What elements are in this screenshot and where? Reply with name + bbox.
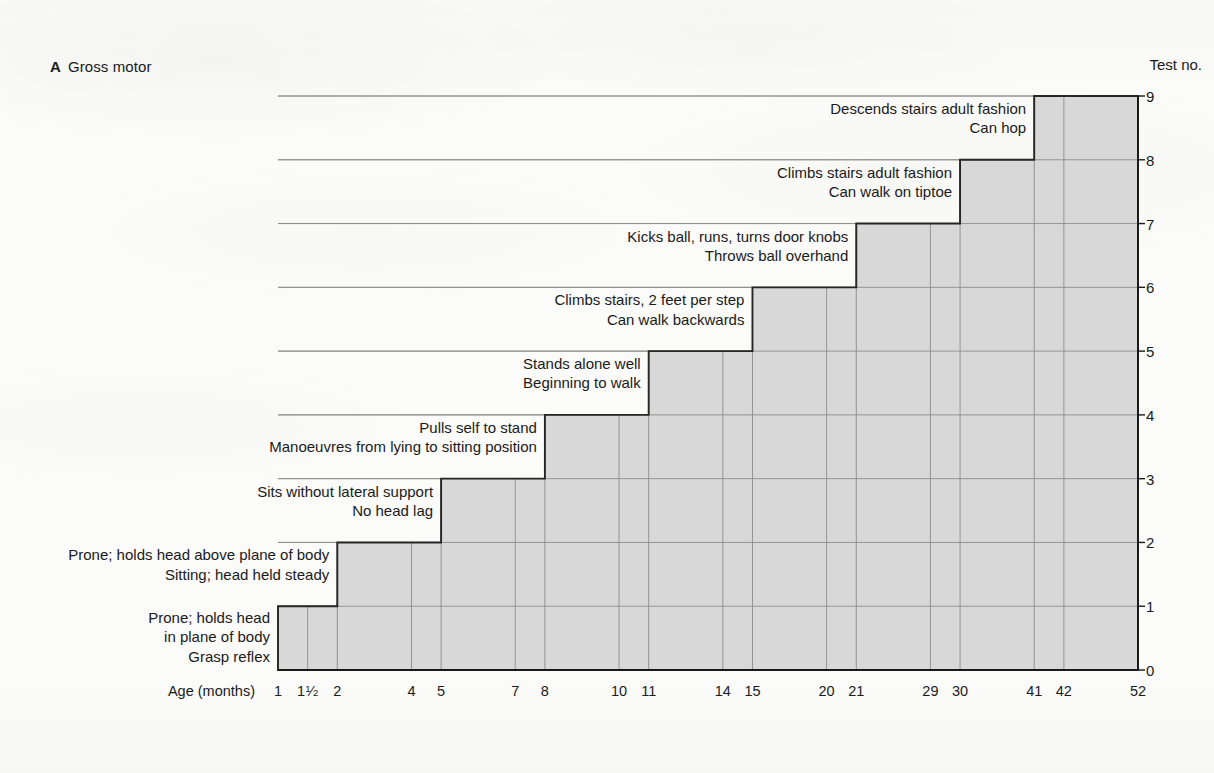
y-axis-title: Test no. — [1149, 56, 1202, 73]
step-milestone-line: Beginning to walk — [0, 373, 641, 392]
step-milestone-line: Can hop — [0, 118, 1026, 137]
x-tick-label: 15 — [744, 684, 760, 699]
step-milestone-line: Kicks ball, runs, turns door knobs — [0, 226, 848, 245]
step-milestone-line: Pulls self to stand — [0, 418, 537, 437]
y-tick-label: 7 — [1146, 216, 1154, 231]
step-block — [649, 351, 753, 670]
y-tick-label: 2 — [1146, 535, 1154, 550]
step-milestone-label: Climbs stairs, 2 feet per stepCan walk b… — [0, 290, 744, 328]
step-milestone-line: Can walk backwards — [0, 309, 744, 328]
x-tick-label: 11 — [641, 684, 656, 699]
step-milestone-line: in plane of body — [0, 628, 270, 647]
step-milestone-line: Manoeuvres from lying to sitting positio… — [0, 437, 537, 456]
step-milestone-label: Descends stairs adult fashionCan hop — [0, 99, 1026, 137]
step-milestone-line: Prone; holds head — [0, 609, 270, 628]
step-block — [856, 224, 960, 670]
x-tick-label: 41 — [1026, 684, 1042, 699]
x-axis-title: Age (months) — [168, 684, 255, 699]
y-tick-label: 4 — [1146, 407, 1154, 422]
step-milestone-line: No head lag — [0, 500, 433, 519]
step-milestone-label: Pulls self to standManoeuvres from lying… — [0, 418, 537, 456]
y-tick-label: 6 — [1146, 280, 1154, 295]
x-tick-label: 21 — [848, 684, 864, 699]
x-tick-label: 2 — [333, 684, 341, 699]
y-tick-label: 0 — [1146, 663, 1154, 678]
x-tick-label: 7 — [511, 684, 519, 699]
step-milestone-line: Grasp reflex — [0, 647, 270, 666]
step-block — [1034, 96, 1138, 670]
x-tick-label: 5 — [437, 684, 445, 699]
y-tick-label: 3 — [1146, 471, 1154, 486]
x-tick-label: 10 — [611, 684, 627, 699]
x-tick-label: 14 — [715, 684, 731, 699]
step-milestone-line: Throws ball overhand — [0, 245, 848, 264]
x-tick-label: 30 — [952, 684, 968, 699]
x-tick-label: 11⁄2 — [297, 684, 318, 699]
step-milestone-line: Sits without lateral support — [0, 481, 433, 500]
step-milestone-line: Climbs stairs, 2 feet per step — [0, 290, 744, 309]
step-milestone-line: Prone; holds head above plane of body — [0, 545, 329, 564]
step-milestone-label: Climbs stairs adult fashionCan walk on t… — [0, 162, 952, 200]
step-milestone-label: Sits without lateral supportNo head lag — [0, 481, 433, 519]
x-tick-label: 52 — [1130, 684, 1146, 699]
x-tick-label: 4 — [407, 684, 415, 699]
step-milestone-line: Sitting; head held steady — [0, 564, 329, 583]
panel-title: AGross motor — [50, 58, 152, 75]
figure-page: AGross motor Test no. Age (months) 01234… — [0, 0, 1214, 773]
panel-letter: A — [50, 58, 61, 75]
panel-title-text: Gross motor — [68, 58, 152, 75]
x-tick-label: 29 — [922, 684, 938, 699]
x-tick-label: 1 — [274, 684, 282, 699]
y-tick-label: 5 — [1146, 344, 1154, 359]
x-tick-label: 8 — [541, 684, 549, 699]
step-milestone-line: Stands alone well — [0, 354, 641, 373]
x-tick-label: 20 — [819, 684, 835, 699]
step-block — [441, 479, 545, 670]
step-milestone-line: Descends stairs adult fashion — [0, 99, 1026, 118]
step-milestone-label: Prone; holds head above plane of bodySit… — [0, 545, 329, 583]
step-milestone-line: Climbs stairs adult fashion — [0, 162, 952, 181]
x-tick-label: 42 — [1056, 684, 1072, 699]
y-tick-label: 9 — [1146, 89, 1154, 104]
step-milestone-label: Kicks ball, runs, turns door knobsThrows… — [0, 226, 848, 264]
y-tick-label: 1 — [1146, 599, 1154, 614]
step-milestone-line: Can walk on tiptoe — [0, 182, 952, 201]
step-milestone-label: Stands alone wellBeginning to walk — [0, 354, 641, 392]
y-tick-label: 8 — [1146, 152, 1154, 167]
step-milestone-label: Prone; holds headin plane of bodyGrasp r… — [0, 609, 270, 667]
